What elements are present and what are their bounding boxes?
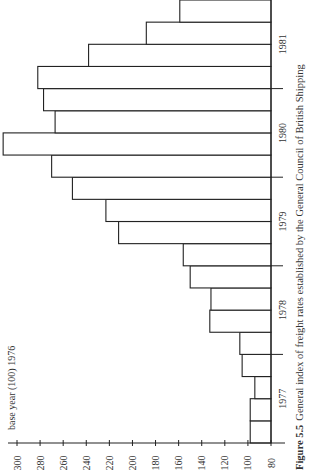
base-year-annotation: base year (100) 1976 <box>6 346 18 430</box>
tick-label: 180 <box>150 456 161 471</box>
bar <box>190 266 271 288</box>
bar <box>55 111 271 133</box>
year-label: 1980 <box>277 123 288 143</box>
tick-label: 200 <box>127 456 138 471</box>
bar <box>52 155 271 177</box>
figure-caption: Figure 5.5General index of freight rates… <box>294 64 305 470</box>
bar <box>72 177 271 199</box>
tick-label: 140 <box>196 456 207 471</box>
bar <box>44 89 271 111</box>
bar <box>89 44 271 66</box>
bar <box>146 22 271 44</box>
year-label: 1978 <box>277 300 288 320</box>
year-label: 1979 <box>277 212 288 232</box>
bar <box>240 332 271 354</box>
tick-label: 260 <box>58 456 69 471</box>
tick-label: 280 <box>35 456 46 471</box>
bar <box>255 377 271 399</box>
bar <box>180 0 271 22</box>
freight-index-chart: 80100120140160180200220240260280300 1977… <box>0 0 311 476</box>
bar <box>3 133 271 155</box>
bar <box>38 66 271 88</box>
bar <box>211 288 271 310</box>
bars <box>3 0 271 443</box>
bar <box>250 421 271 443</box>
tick-label: 120 <box>219 456 230 471</box>
bar <box>250 399 271 421</box>
tick-label: 240 <box>81 456 92 471</box>
tick-label: 220 <box>104 456 115 471</box>
tick-label: 160 <box>173 456 184 471</box>
bar <box>119 222 271 244</box>
year-axis: 19771978197919801981 <box>271 34 288 408</box>
bar <box>183 244 271 266</box>
year-label: 1977 <box>277 389 288 409</box>
bar <box>242 354 271 376</box>
bar <box>210 310 271 332</box>
tick-label: 80 <box>266 458 277 468</box>
tick-label: 100 <box>242 456 253 471</box>
tick-label: 300 <box>12 456 23 471</box>
bar <box>106 199 271 221</box>
year-label: 1981 <box>277 34 288 54</box>
